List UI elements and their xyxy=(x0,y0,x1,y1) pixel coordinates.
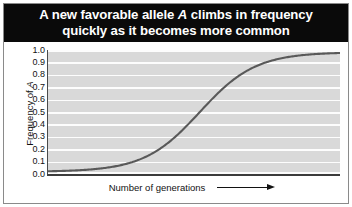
y-axis-tick-label: 0.8 xyxy=(20,70,45,79)
x-axis-line xyxy=(47,174,340,176)
arrow-shaft xyxy=(217,187,271,188)
y-axis-tick-labels: 1.00.90.80.70.60.50.40.30.20.10.0 xyxy=(20,46,45,174)
allele-frequency-curve xyxy=(48,50,340,174)
y-axis-tick-label: 0.5 xyxy=(20,108,45,117)
arrow-head xyxy=(267,184,275,190)
x-axis-label-group: Number of generations xyxy=(48,182,340,193)
title-text-after: climbs in frequency xyxy=(187,7,313,22)
figure-panel: A new favorable allele A climbs in frequ… xyxy=(0,0,352,207)
x-axis-label: Number of generations xyxy=(109,182,206,193)
figure-title-line-1: A new favorable allele A climbs in frequ… xyxy=(39,7,313,23)
y-axis-tick-label: 0.0 xyxy=(20,170,45,179)
figure-title-bar: A new favorable allele A climbs in frequ… xyxy=(4,4,348,42)
plot-area xyxy=(48,50,340,174)
y-axis-tick-label: 0.7 xyxy=(20,83,45,92)
title-allele-symbol: A xyxy=(178,7,187,22)
y-axis-tick-label: 0.3 xyxy=(20,132,45,141)
y-axis-tick-label: 1.0 xyxy=(20,46,45,55)
title-text-before: A new favorable allele xyxy=(39,7,178,22)
chart-region: Frequency of A 1.00.90.80.70.60.50.40.30… xyxy=(0,42,352,207)
y-axis-tick-label: 0.6 xyxy=(20,95,45,104)
y-axis-tick-label: 0.9 xyxy=(20,58,45,67)
right-arrow-icon xyxy=(217,184,279,191)
y-axis-tick-label: 0.2 xyxy=(20,145,45,154)
figure-title-line-2: quickly as it becomes more common xyxy=(62,23,290,39)
y-axis-tick-label: 0.4 xyxy=(20,120,45,129)
y-axis-tick-label: 0.1 xyxy=(20,157,45,166)
